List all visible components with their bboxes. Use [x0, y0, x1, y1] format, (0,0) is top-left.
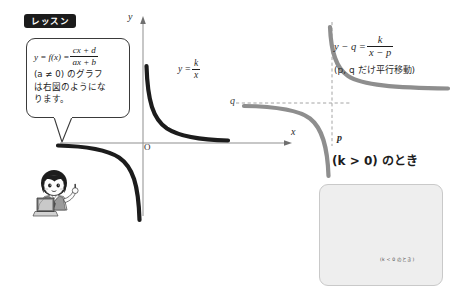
right-equation-denominator: x − p [367, 47, 393, 58]
bubble-text-line-2: は右図のようにな [34, 81, 124, 93]
lesson-badge: レッスン [24, 14, 76, 28]
right-equation-lhs: y − q = [334, 41, 366, 52]
left-equation-denominator: x [192, 70, 200, 80]
speech-bubble-tail [52, 117, 74, 143]
bubble-equation-fraction: cx + d ax + b [70, 46, 98, 67]
right-equation-numerator: k [376, 34, 385, 45]
right-graph-condition: (k > 0) のとき [332, 151, 418, 168]
right-graph-p-label: p [337, 132, 342, 143]
left-graph-x-arrow [284, 140, 292, 146]
right-graph-equation-block: y − q = k x − p (p, q だけ平行移動) [334, 34, 415, 76]
speech-bubble: y = f(x) = cx + d ax + b (a ≠ 0) のグラフ は右… [26, 38, 130, 118]
bubble-equation-lhs: y = f(x) = [34, 52, 69, 62]
left-graph-equation: y = k x [178, 58, 201, 81]
left-equation-lhs: y = [178, 64, 191, 74]
bubble-text-line-1: (a ≠ 0) のグラフ [34, 68, 124, 80]
inset-panel [319, 184, 443, 286]
left-graph-x-label: x [291, 126, 295, 137]
right-graph-note: (p, q だけ平行移動) [334, 63, 415, 76]
right-graph-equation: y − q = k x − p [334, 34, 415, 59]
right-curve-branch-lower [244, 106, 329, 176]
lesson-page: レッスン y = f(x) = cx + d ax + b (a ≠ 0) のグ… [0, 0, 454, 298]
bubble-text-line-3: ります。 [34, 93, 124, 105]
left-graph-origin-label: O [144, 142, 151, 152]
bubble-equation-numerator: cx + d [71, 46, 98, 56]
bubble-equation-denominator: ax + b [70, 58, 98, 68]
bubble-equation: y = f(x) = cx + d ax + b [34, 46, 124, 67]
right-graph-q-label: q [230, 95, 235, 106]
left-equation-fraction: k x [192, 58, 200, 81]
inset-caption: (k < 0 のとき) [380, 256, 415, 262]
left-graph-y-arrow [140, 16, 146, 24]
right-equation-fraction: k x − p [367, 34, 393, 59]
left-equation-numerator: k [192, 58, 200, 68]
left-graph-y-label: y [128, 11, 132, 22]
avatar [30, 166, 88, 218]
